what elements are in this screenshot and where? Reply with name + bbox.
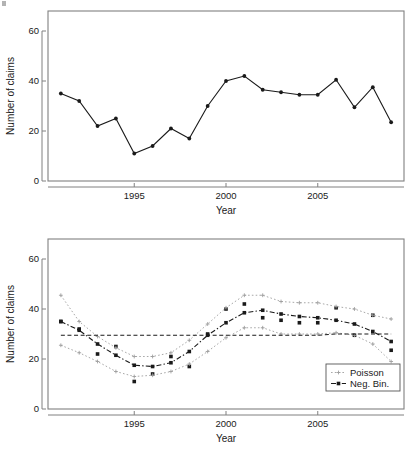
data-point: [77, 99, 81, 103]
data-point: [353, 307, 357, 311]
legend-marker-square: [337, 382, 341, 386]
data-point: [59, 92, 63, 96]
data-point: [243, 311, 247, 315]
data-point: [371, 330, 375, 334]
data-point: [151, 365, 155, 369]
y-tick-label: 60: [28, 253, 39, 264]
data-point: [59, 320, 63, 324]
data-point: [169, 351, 173, 355]
data-point: [151, 355, 155, 359]
claims-figure: 0204060199520002005YearNumber of claims …: [0, 0, 417, 455]
y-tick-label: 20: [28, 353, 39, 364]
model-legend: PoissonNeg. Bin.: [326, 364, 400, 391]
y-tick-label: 20: [28, 125, 39, 136]
data-point: [242, 74, 246, 78]
series-line-0: [61, 76, 391, 154]
data-point: [389, 120, 393, 124]
data-point: [59, 293, 63, 297]
data-point: [316, 321, 320, 325]
data-point: [77, 351, 81, 355]
data-point: [132, 152, 136, 156]
legend-label-0: Poisson: [350, 367, 384, 378]
data-point: [371, 342, 375, 346]
data-point: [334, 78, 338, 82]
data-point: [298, 93, 302, 97]
data-point: [132, 380, 136, 384]
data-point: [114, 353, 118, 357]
data-point: [59, 343, 63, 347]
y-axis-title: Number of claims: [5, 57, 16, 135]
data-point: [132, 375, 136, 379]
data-point: [243, 302, 247, 306]
data-point: [96, 360, 100, 364]
x-tick-label: 1995: [124, 418, 145, 429]
data-point: [298, 315, 302, 319]
data-point: [188, 350, 192, 354]
x-tick-label: 2000: [215, 418, 236, 429]
data-point: [96, 124, 100, 128]
y-tick-label: 0: [34, 403, 39, 414]
series-line-2: [61, 295, 391, 356]
data-point: [279, 300, 283, 304]
y-tick-label: 0: [34, 175, 39, 186]
data-point: [224, 321, 228, 325]
x-tick-label: 2000: [215, 190, 236, 201]
data-point: [389, 340, 393, 344]
data-point: [316, 93, 320, 97]
data-point: [316, 301, 320, 305]
data-point: [132, 363, 136, 367]
legend-label-1: Neg. Bin.: [350, 378, 389, 389]
plot-frame: [48, 11, 404, 181]
data-point: [316, 316, 320, 320]
data-point: [114, 117, 118, 121]
data-point: [77, 320, 81, 324]
data-point: [353, 105, 357, 109]
data-point: [279, 312, 283, 316]
data-point: [389, 317, 393, 321]
data-point: [169, 127, 173, 131]
x-tick-label: 2005: [307, 190, 328, 201]
data-point: [77, 328, 81, 332]
data-point: [206, 104, 210, 108]
data-point: [169, 355, 173, 359]
data-point: [261, 88, 265, 92]
data-point: [298, 321, 302, 325]
y-tick-label: 60: [28, 25, 39, 36]
data-point: [298, 301, 302, 305]
data-point: [389, 348, 393, 352]
data-point: [224, 79, 228, 83]
fitted-models-panel: 0204060199520002005YearNumber of claimsP…: [0, 228, 417, 455]
x-axis-title: Year: [216, 205, 237, 216]
data-point: [151, 144, 155, 148]
data-point: [169, 370, 173, 374]
fitted-models-plot: 0204060199520002005YearNumber of claimsP…: [0, 228, 417, 455]
series-line-4: [61, 334, 391, 335]
y-tick-label: 40: [28, 303, 39, 314]
x-tick-label: 2005: [307, 418, 328, 429]
data-point: [279, 318, 283, 322]
data-point: [261, 316, 265, 320]
data-point: [242, 326, 246, 330]
data-point: [114, 370, 118, 374]
data-point: [187, 137, 191, 141]
data-point: [96, 352, 100, 356]
data-point: [242, 293, 246, 297]
data-point: [169, 361, 173, 365]
data-point: [334, 318, 338, 322]
y-tick-label: 40: [28, 75, 39, 86]
data-point: [96, 342, 100, 346]
y-axis-title: Number of claims: [5, 285, 16, 363]
data-point: [353, 322, 357, 326]
data-point: [279, 90, 283, 94]
data-point: [187, 338, 191, 342]
data-point: [371, 85, 375, 89]
data-point: [261, 308, 265, 312]
x-tick-label: 1995: [124, 190, 145, 201]
data-point: [224, 336, 228, 340]
observed-claims-panel: 0204060199520002005YearNumber of claims: [0, 0, 417, 227]
data-point: [261, 326, 265, 330]
data-point: [132, 355, 136, 359]
observed-claims-plot: 0204060199520002005YearNumber of claims: [0, 0, 417, 227]
data-point: [261, 293, 265, 297]
x-axis-title: Year: [216, 433, 237, 444]
